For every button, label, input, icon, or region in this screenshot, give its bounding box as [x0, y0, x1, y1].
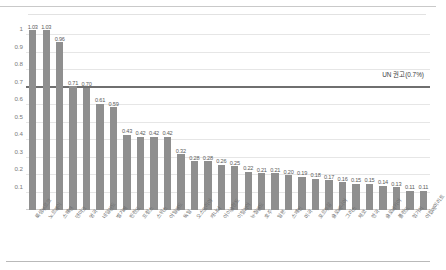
- x-label-slot: 아이슬란드: [215, 212, 228, 264]
- bar-slot[interactable]: 0.42: [147, 18, 160, 210]
- bar-value-label: 0.19: [297, 170, 307, 176]
- bottom-divider: [6, 261, 430, 262]
- x-label-slot: 아랍에미리트: [417, 212, 430, 264]
- bar-slot[interactable]: 0.43: [120, 18, 133, 210]
- y-axis-tick-label: 0.4: [14, 130, 23, 137]
- bar-slot[interactable]: 0.21: [268, 18, 281, 210]
- bar[interactable]: [43, 30, 50, 210]
- bar[interactable]: [110, 107, 117, 210]
- bar-value-label: 0.61: [95, 97, 105, 103]
- bar[interactable]: [366, 184, 373, 210]
- bar-value-label: 0.28: [189, 155, 199, 161]
- bar-value-label: 0.11: [405, 184, 415, 190]
- x-label-slot: 그리스: [336, 212, 349, 264]
- bar-slot[interactable]: 0.15: [349, 18, 362, 210]
- bar-slot[interactable]: 1.03: [26, 18, 39, 210]
- bar-value-label: 0.32: [176, 148, 186, 154]
- x-label-slot: 일본: [268, 212, 281, 264]
- bar-value-label: 0.17: [324, 174, 334, 180]
- bar-slot[interactable]: 0.71: [66, 18, 79, 210]
- bar[interactable]: [123, 135, 130, 210]
- bar[interactable]: [379, 186, 386, 210]
- bar[interactable]: [69, 86, 76, 210]
- y-axis-tick-label: 1: [20, 25, 23, 32]
- bar-slot[interactable]: 0.25: [228, 18, 241, 210]
- bar-value-label: 0.16: [337, 176, 347, 182]
- bar-slot[interactable]: 0.13: [390, 18, 403, 210]
- x-label-slot: 폴란드: [390, 212, 403, 264]
- bar-slot[interactable]: 0.96: [53, 18, 66, 210]
- bar-value-label: 0.70: [82, 81, 92, 87]
- x-label-slot: 포르투갈: [309, 212, 322, 264]
- bar[interactable]: [29, 30, 36, 210]
- x-label-slot: 룩셈부르크: [26, 212, 39, 264]
- bar-slot[interactable]: 0.59: [107, 18, 120, 210]
- bar-value-label: 0.25: [230, 160, 240, 166]
- bar[interactable]: [137, 137, 144, 210]
- plot-area: 0.10.20.30.40.50.60.70.80.91 UN 권고(0.7%)…: [26, 18, 430, 210]
- bar-slot[interactable]: 0.18: [309, 18, 322, 210]
- x-label-slot: 한국: [363, 212, 376, 264]
- x-label-slot: 호주: [255, 212, 268, 264]
- bar-slot[interactable]: 0.11: [417, 18, 430, 210]
- top-divider: [0, 6, 436, 7]
- bar[interactable]: [96, 104, 103, 210]
- bar-value-label: 0.59: [109, 101, 119, 107]
- bar-value-label: 0.26: [216, 158, 226, 164]
- bar[interactable]: [83, 88, 90, 210]
- bar-value-label: 0.21: [257, 167, 267, 173]
- x-label-slot: 뉴질랜드: [242, 212, 255, 264]
- bar-slot[interactable]: 0.32: [174, 18, 187, 210]
- x-label-slot: 스페인: [282, 212, 295, 264]
- bar-slot[interactable]: 0.42: [161, 18, 174, 210]
- y-axis-tick-label: 0.6: [14, 95, 23, 102]
- bar-slot[interactable]: 0.17: [322, 18, 335, 210]
- x-label-slot: 영국: [80, 212, 93, 264]
- bar-value-label: 0.11: [418, 184, 428, 190]
- bar-slot[interactable]: 0.19: [295, 18, 308, 210]
- bar-slot[interactable]: 0.28: [201, 18, 214, 210]
- x-label-slot: 프랑스: [134, 212, 147, 264]
- x-label-slot: 슬로베니아: [322, 212, 335, 264]
- x-label-slot: 체코: [349, 212, 362, 264]
- bar-slot[interactable]: 0.26: [215, 18, 228, 210]
- bar-value-label: 0.22: [243, 165, 253, 171]
- bar-value-label: 0.42: [135, 130, 145, 136]
- bar-slot[interactable]: 0.16: [336, 18, 349, 210]
- bar[interactable]: [285, 175, 292, 210]
- bar-value-label: 0.96: [55, 36, 65, 42]
- bar-slot[interactable]: 0.20: [282, 18, 295, 210]
- x-label-slot: 벨기에: [107, 212, 120, 264]
- bar[interactable]: [218, 165, 225, 210]
- bar-slot[interactable]: 0.11: [403, 18, 416, 210]
- x-label-slot: 이탈리아: [228, 212, 241, 264]
- bar-slot[interactable]: 1.03: [39, 18, 52, 210]
- bar[interactable]: [150, 137, 157, 210]
- bar[interactable]: [164, 137, 171, 210]
- y-axis-tick-label: 0.3: [14, 147, 23, 154]
- bar-slot[interactable]: 0.14: [376, 18, 389, 210]
- bar-slot[interactable]: 0.22: [242, 18, 255, 210]
- bar-slot[interactable]: 0.42: [134, 18, 147, 210]
- bar-slot[interactable]: 0.28: [188, 18, 201, 210]
- bar-slot[interactable]: 0.15: [363, 18, 376, 210]
- x-label-slot: 핀란드: [120, 212, 133, 264]
- x-label-slot: 독일: [174, 212, 187, 264]
- bar-slot[interactable]: 0.61: [93, 18, 106, 210]
- x-label-slot: 노르웨이: [39, 212, 52, 264]
- x-label-slot: 캐나다: [201, 212, 214, 264]
- x-label-slot: 스웨덴: [53, 212, 66, 264]
- bar-value-label: 0.28: [203, 155, 213, 161]
- y-axis-tick-label: 0.8: [14, 60, 23, 67]
- bar-value-label: 0.13: [391, 181, 401, 187]
- bar[interactable]: [191, 161, 198, 210]
- bar[interactable]: [312, 179, 319, 210]
- bar-value-label: 1.03: [28, 24, 38, 30]
- bar-value-label: 0.15: [364, 177, 374, 183]
- bar-slot[interactable]: 0.70: [80, 18, 93, 210]
- bar-slot[interactable]: 0.21: [255, 18, 268, 210]
- bar[interactable]: [56, 42, 63, 210]
- bar[interactable]: [271, 173, 278, 210]
- bar-value-label: 1.03: [41, 24, 51, 30]
